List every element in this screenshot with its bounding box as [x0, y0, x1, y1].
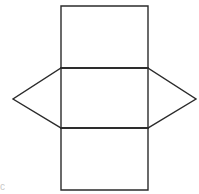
- middle-square-face: [61, 68, 148, 128]
- top-square-outline: [61, 6, 148, 68]
- bottom-square-face: [61, 128, 148, 190]
- left-triangle-face: [13, 68, 61, 128]
- right-triangle-outline: [148, 68, 196, 128]
- right-triangle-face: [148, 68, 196, 128]
- corner-glyph-artifact: c: [0, 181, 7, 192]
- geometry-net-figure: c: [0, 0, 199, 194]
- middle-square-outline: [61, 68, 148, 128]
- left-triangle-outline: [13, 68, 61, 128]
- net-diagram-svg: [0, 0, 199, 194]
- top-square-face: [61, 6, 148, 68]
- bottom-square-outline: [61, 128, 148, 190]
